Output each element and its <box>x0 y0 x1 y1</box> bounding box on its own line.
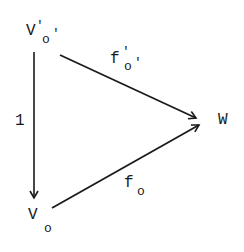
node-v0-sub: o <box>44 222 52 235</box>
node-v0-prime-sub: o <box>42 33 50 46</box>
edge-label-f0-prime-prime: ' <box>122 45 130 58</box>
edge-label-f0-base: f <box>124 175 134 191</box>
edge-label-f0-prime-sub-prime: ' <box>134 56 142 69</box>
edge-label-identity: 1 <box>15 113 25 129</box>
node-v0-prime-sub-prime: ' <box>52 27 60 40</box>
node-w: W <box>218 112 228 128</box>
node-v0-prime-base: V <box>26 23 36 39</box>
edge-label-f0-prime-sub: o <box>124 60 132 73</box>
commutative-diagram: V ' o ' V o W 1 f ' o ' f o <box>0 0 244 252</box>
edge-label-f0-prime-base: f <box>110 51 120 67</box>
node-v0-base: V <box>28 207 38 223</box>
edge-label-f0-sub: o <box>137 185 145 198</box>
arrow-bottom-f0 <box>52 125 199 208</box>
node-v0-prime-prime: ' <box>36 19 44 32</box>
